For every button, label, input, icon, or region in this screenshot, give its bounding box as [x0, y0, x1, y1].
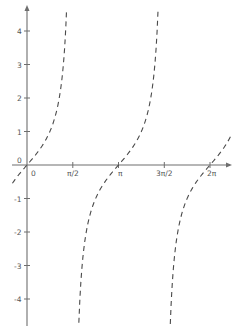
y-label-m2: -2	[14, 228, 22, 237]
x-label-2pi: 2π	[207, 169, 217, 178]
tan-branch-3	[170, 136, 231, 324]
y-label-origin: 0	[17, 156, 22, 165]
y-label-3: 3	[17, 61, 22, 70]
x-label-pi: π	[118, 169, 123, 178]
x-label-pi-half: π/2	[67, 169, 79, 178]
y-label-m3: -3	[14, 262, 22, 271]
y-label-1: 1	[17, 128, 22, 137]
tangent-chart: 0 π/2 π 3π/2 2π 0 4 3 2 1 -1 -2 -3 -4	[0, 0, 236, 333]
x-label-3pi-half: 3π/2	[156, 169, 173, 178]
x-label-0: 0	[31, 169, 36, 178]
axes	[12, 5, 232, 326]
y-label-4: 4	[17, 27, 22, 36]
y-label-2: 2	[17, 94, 22, 103]
x-axis-arrow-icon	[226, 163, 232, 168]
y-axis-arrow-icon	[25, 5, 30, 11]
y-label-m4: -4	[14, 295, 22, 304]
y-label-m1: -1	[14, 195, 22, 204]
tan-curves	[12, 8, 230, 324]
x-tick-labels: 0 π/2 π 3π/2 2π	[31, 169, 217, 178]
